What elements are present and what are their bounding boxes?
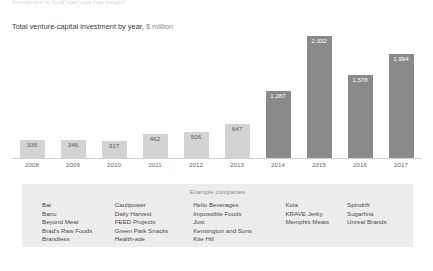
x-tick-2012: 2012 <box>176 161 216 168</box>
company-name: Beyond Meat <box>42 218 115 227</box>
company-column-3: Hello BeveragesImpossible FoodsJustKensi… <box>193 201 285 244</box>
bar-column: 2,332 <box>299 36 339 158</box>
x-tick-2010: 2010 <box>94 161 134 168</box>
example-companies-columns: BaiBanuBeyond MeatBrad's Raw FoodsBrandl… <box>42 201 403 244</box>
company-name: Hello Beverages <box>193 201 285 210</box>
chart-title-unit: $ million <box>146 22 173 31</box>
company-name: Banu <box>42 210 115 219</box>
x-tick-2009: 2009 <box>53 161 93 168</box>
cropped-headline: Investment in food start-ups has surged <box>12 0 125 6</box>
x-tick-2014: 2014 <box>258 161 298 168</box>
company-name: KRAVE Jerky <box>285 210 347 219</box>
x-tick-2017: 2017 <box>381 161 421 168</box>
bar-column: 506 <box>176 36 216 158</box>
bar-2010: 317 <box>102 141 127 158</box>
bar-series: 3363463174625066471,2872,3321,5781,994 <box>12 36 421 158</box>
company-column-2: CaulipowerDaily HarvestFEED ProjectsGree… <box>115 201 193 244</box>
bar-column: 336 <box>12 36 52 158</box>
bar-column: 1,578 <box>340 36 380 158</box>
bar-value-label: 506 <box>191 134 201 140</box>
company-name: Kite Hill <box>193 235 285 244</box>
bar-value-label: 346 <box>68 142 78 148</box>
company-name: Impossible Foods <box>193 210 285 219</box>
company-name: Sugarfina <box>347 210 403 219</box>
chart-title-main: Total venture-capital investment by year… <box>12 22 144 31</box>
x-tick-2008: 2008 <box>12 161 52 168</box>
bar-column: 346 <box>53 36 93 158</box>
bar-2016: 1,578 <box>348 75 373 158</box>
bar-value-label: 2,332 <box>311 38 326 44</box>
x-tick-2016: 2016 <box>340 161 380 168</box>
company-name: FEED Projects <box>115 218 193 227</box>
company-name: Caulipower <box>115 201 193 210</box>
bar-column: 317 <box>94 36 134 158</box>
example-companies-heading: Example companies <box>22 188 413 195</box>
company-name: Bai <box>42 201 115 210</box>
company-column-1: BaiBanuBeyond MeatBrad's Raw FoodsBrandl… <box>42 201 115 244</box>
company-name: Koia <box>285 201 347 210</box>
x-axis-line <box>12 158 421 159</box>
bar-2017: 1,994 <box>389 54 414 158</box>
bar-column: 1,287 <box>258 36 298 158</box>
bar-value-label: 647 <box>232 126 242 132</box>
company-column-5: SpindriftSugarfinaUnreal Brands <box>347 201 403 244</box>
bar-2012: 506 <box>184 132 209 158</box>
bar-value-label: 1,287 <box>270 93 285 99</box>
bar-2011: 462 <box>143 134 168 158</box>
plot-area: 3363463174625066471,2872,3321,5781,994 <box>12 36 421 158</box>
x-tick-2013: 2013 <box>217 161 257 168</box>
bar-value-label: 317 <box>109 143 119 149</box>
bar-value-label: 1,994 <box>393 56 408 62</box>
company-name: Unreal Brands <box>347 218 403 227</box>
company-name: Health-ade <box>115 235 193 244</box>
bar-2013: 647 <box>225 124 250 158</box>
company-column-4: KoiaKRAVE JerkyMemphis Meats <box>285 201 347 244</box>
x-tick-2015: 2015 <box>299 161 339 168</box>
x-axis-tick-labels: 2008200920102011201220132014201520162017 <box>12 161 421 168</box>
bar-column: 1,994 <box>381 36 421 158</box>
company-name: Brandless <box>42 235 115 244</box>
company-name: Memphis Meats <box>285 218 347 227</box>
bar-column: 462 <box>135 36 175 158</box>
company-name: Kensington and Sons <box>193 227 285 236</box>
bar-2014: 1,287 <box>266 91 291 158</box>
company-name: Green Park Snacks <box>115 227 193 236</box>
bar-value-label: 1,578 <box>352 77 367 83</box>
bar-column: 647 <box>217 36 257 158</box>
bar-2008: 336 <box>20 140 45 158</box>
example-companies-panel: Example companies BaiBanuBeyond MeatBrad… <box>22 184 413 247</box>
bar-2009: 346 <box>61 140 86 158</box>
company-name: Daily Harvest <box>115 210 193 219</box>
bar-2015: 2,332 <box>307 36 332 158</box>
chart-title: Total venture-capital investment by year… <box>12 22 173 31</box>
company-name: Spindrift <box>347 201 403 210</box>
company-name: Brad's Raw Foods <box>42 227 115 236</box>
bar-value-label: 462 <box>150 136 160 142</box>
chart-figure: Investment in food start-ups has surged … <box>0 0 433 271</box>
bar-value-label: 336 <box>27 142 37 148</box>
company-name: Just <box>193 218 285 227</box>
x-tick-2011: 2011 <box>135 161 175 168</box>
